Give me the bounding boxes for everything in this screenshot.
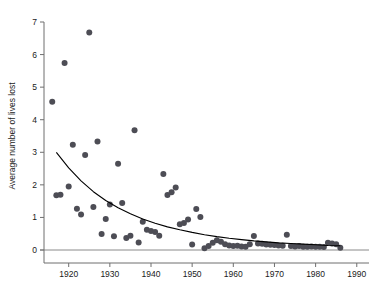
data-point xyxy=(90,204,96,210)
data-point xyxy=(82,152,88,158)
data-point xyxy=(62,60,68,66)
scatter-plot-figure: 01234567 1920193019401950196019701980199… xyxy=(0,0,385,296)
x-tick-label: 1990 xyxy=(347,269,366,279)
data-point xyxy=(103,216,109,222)
x-tick-label: 1960 xyxy=(224,269,243,279)
data-point xyxy=(160,171,166,177)
data-point xyxy=(99,231,105,237)
data-point xyxy=(74,206,80,212)
data-point xyxy=(169,189,175,195)
data-point xyxy=(185,216,191,222)
y-tick-label: 6 xyxy=(32,50,37,60)
y-axis-title: Average number of lives lost xyxy=(7,82,17,190)
data-point xyxy=(189,241,195,247)
y-tick-label: 2 xyxy=(32,180,37,190)
y-axis-title-text: Average number of lives lost xyxy=(7,82,17,190)
data-point xyxy=(49,99,55,105)
data-point xyxy=(173,184,179,190)
x-tick-label: 1920 xyxy=(59,269,78,279)
data-point xyxy=(251,233,257,239)
data-point xyxy=(57,192,63,198)
y-tick-label: 7 xyxy=(32,17,37,27)
data-point xyxy=(86,29,92,35)
x-tick-label: 1930 xyxy=(100,269,119,279)
data-point xyxy=(136,240,142,246)
plot-background xyxy=(0,0,385,296)
data-point xyxy=(132,127,138,133)
data-point xyxy=(156,233,162,239)
data-point xyxy=(95,139,101,145)
y-tick-label: 4 xyxy=(32,115,37,125)
y-tick-label: 1 xyxy=(32,212,37,222)
data-point xyxy=(78,212,84,218)
data-point xyxy=(193,206,199,212)
data-point xyxy=(111,233,117,239)
data-point xyxy=(70,142,76,148)
x-tick-label: 1950 xyxy=(183,269,202,279)
x-tick-label: 1980 xyxy=(306,269,325,279)
data-point xyxy=(197,214,203,220)
data-point xyxy=(115,161,121,167)
y-tick-label: 3 xyxy=(32,147,37,157)
chart-canvas: 01234567 1920193019401950196019701980199… xyxy=(0,0,385,296)
data-point xyxy=(247,241,253,247)
y-tick-label: 5 xyxy=(32,82,37,92)
data-point xyxy=(284,232,290,238)
x-tick-label: 1970 xyxy=(265,269,284,279)
y-tick-label: 0 xyxy=(32,245,37,255)
x-tick-label: 1940 xyxy=(142,269,161,279)
data-point xyxy=(119,200,125,206)
data-point xyxy=(127,233,133,239)
data-point xyxy=(66,183,72,189)
